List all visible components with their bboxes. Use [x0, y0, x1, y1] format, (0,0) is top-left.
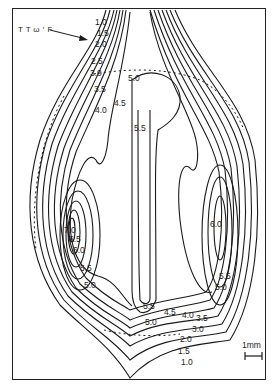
label-5.5-left: 5.5 [80, 263, 92, 273]
contour-5.5-center [138, 110, 150, 304]
label-1.0-bottom: 1.0 [181, 357, 193, 367]
label-6.0-left: 6.0 [73, 245, 85, 255]
pointer-arrow-head [79, 35, 88, 41]
label-3.0-top: 3.0 [90, 68, 102, 78]
contour-2.5 [49, 10, 240, 336]
label-5.5-center: 5.5 [134, 123, 146, 133]
scale-bar-icon [245, 352, 262, 360]
annotation-label: T T ω ′ F [18, 25, 53, 34]
label-4.0-bottom: 4.0 [182, 310, 194, 320]
label-1.5-bottom: 1.5 [178, 346, 190, 356]
label-6.0-right: 6.0 [210, 219, 222, 229]
pointer-arrow-icon [50, 30, 82, 38]
label-4.5-center: 4.5 [114, 98, 126, 108]
scale-label: 1mm [242, 340, 261, 350]
label-3.5-bottom: 3.5 [196, 313, 208, 323]
label-3.5-top: 3.5 [94, 84, 106, 94]
label-3.0-bottom: 3.0 [192, 324, 204, 334]
label-1.0-top: 1.0 [95, 17, 107, 27]
label-2.0-bottom: 2.0 [180, 334, 192, 344]
label-4.5-bottom: 4.5 [164, 307, 176, 317]
label-6.5-left: 6.5 [69, 234, 81, 244]
label-4.0-top: 4.0 [95, 105, 107, 115]
label-5.0-bottom: 5.0 [145, 317, 157, 327]
label-1.5-top: 1.5 [97, 28, 109, 38]
label-5.5-bottom: 5.5 [143, 301, 155, 311]
contour-2.0 [43, 10, 246, 346]
contour-diagram: T T ω ′ F 1mm 1.0 1.5 2.0 2.5 3.0 3.5 4.… [0, 0, 274, 384]
label-5.0-center: 5.0 [128, 73, 140, 83]
label-2.5-top: 2.5 [91, 56, 103, 66]
label-5.0-left: 5.0 [84, 280, 96, 290]
label-5.0-right: 5.0 [215, 282, 227, 292]
label-5.5-right: 5.5 [219, 271, 231, 281]
label-2.0-top: 2.0 [95, 39, 107, 49]
